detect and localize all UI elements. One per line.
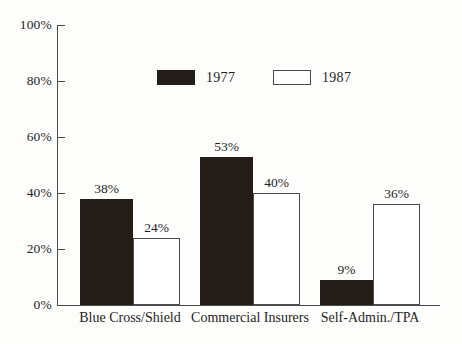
legend-label-1977: 1977 [206, 71, 235, 85]
y-axis-tick-label: 40% [4, 186, 52, 200]
y-axis-tick-label: 60% [4, 130, 52, 144]
bar-1987-0[interactable] [133, 238, 180, 305]
bar-1987-2[interactable] [373, 204, 420, 305]
bar-value-label: 36% [365, 187, 428, 201]
legend-item-1977[interactable]: 1977 [157, 70, 235, 85]
y-axis-tick [58, 305, 65, 306]
bar-1977-2[interactable] [320, 280, 373, 305]
bar-value-label: 38% [72, 182, 141, 196]
y-axis-tick-label: 80% [4, 74, 52, 88]
bar-1987-1[interactable] [253, 193, 300, 305]
bar-1977-0[interactable] [80, 199, 133, 305]
bar-chart: 0%20%40%60%80%100% 38%24%53%40%9%36% Blu… [0, 0, 462, 344]
legend-item-1987[interactable]: 1987 [273, 70, 351, 85]
y-axis-tick-label: 100% [4, 18, 52, 32]
legend-label-1987: 1987 [322, 71, 351, 85]
x-axis-category-label: Commercial Insurers [180, 310, 320, 325]
bar-value-label: 40% [245, 176, 308, 190]
x-axis-category-label: Self-Admin./TPA [300, 310, 440, 325]
plot-area: 38%24%53%40%9%36% [57, 25, 440, 305]
y-axis-tick-label: 0% [4, 298, 52, 312]
bar-value-label: 24% [125, 221, 188, 235]
bar-value-label: 53% [192, 140, 261, 154]
legend-swatch-1977-icon [157, 70, 195, 85]
y-axis-tick-label: 20% [4, 242, 52, 256]
bars-layer: 38%24%53%40%9%36% [57, 25, 440, 305]
x-axis-category-label: Blue Cross/Shield [60, 310, 200, 325]
legend-swatch-1987-icon [273, 70, 311, 85]
bar-value-label: 9% [312, 263, 381, 277]
x-axis-line [57, 305, 440, 306]
